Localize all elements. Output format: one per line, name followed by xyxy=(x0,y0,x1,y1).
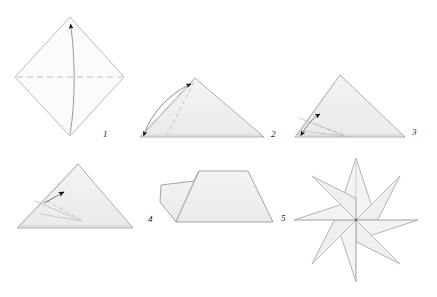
step-1-panel: 1 xyxy=(15,17,124,139)
step-2-triangle xyxy=(140,78,264,137)
step-3-label: 3 xyxy=(411,127,417,137)
step-3-triangle xyxy=(295,75,405,137)
step-2-panel: 2 xyxy=(140,78,276,139)
origami-diagram: 1 2 3 4 xyxy=(0,0,437,297)
step-1-label: 1 xyxy=(103,129,108,139)
step-5-module-shape xyxy=(160,171,273,222)
step-6-star-panel xyxy=(294,158,418,282)
step-4-panel: 4 xyxy=(17,164,153,228)
star-center-point xyxy=(355,219,358,222)
diagram-canvas: 1 2 3 4 xyxy=(0,0,437,297)
step-4-label: 4 xyxy=(148,214,153,224)
step-5-label: 5 xyxy=(281,213,286,223)
step-3-panel: 3 xyxy=(295,75,417,137)
step-2-label: 2 xyxy=(271,129,276,139)
step-5-panel: 5 xyxy=(160,171,286,223)
